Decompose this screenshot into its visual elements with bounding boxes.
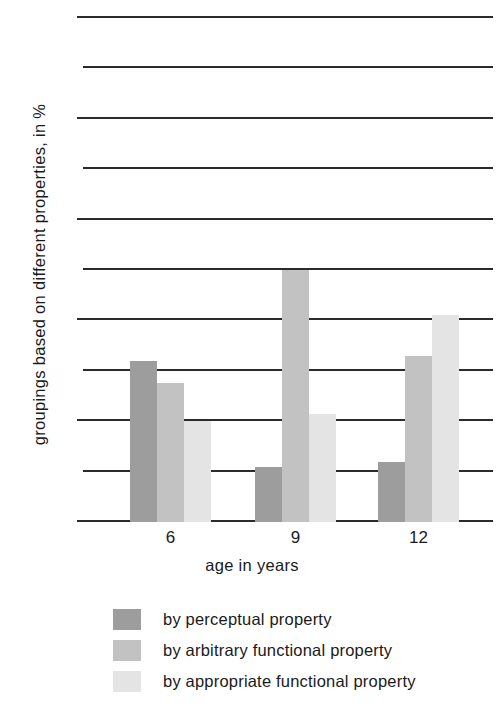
bar-6-series1	[130, 361, 157, 522]
bar-12-series1	[378, 462, 405, 522]
gridline-minor-70	[83, 167, 493, 169]
x-tick-label-9: 9	[256, 528, 336, 548]
bar-9-series3	[309, 414, 336, 522]
legend-swatch-icon-1	[113, 609, 141, 630]
legend-item-label: by perceptual property	[163, 610, 332, 629]
gridline-major-60	[77, 218, 493, 220]
legend-item-label: by appropriate functional property	[163, 672, 416, 691]
gridline-major-80	[77, 117, 493, 119]
legend-swatch-icon-2	[113, 640, 141, 661]
legend-swatch-icon-3	[113, 671, 141, 692]
plot-area: 020406080100	[77, 18, 493, 522]
bar-9-series2	[282, 270, 309, 522]
gridline-minor-90	[83, 66, 493, 68]
bar-6-series2	[157, 383, 184, 522]
bar-12-series2	[405, 356, 432, 522]
x-tick-label-6: 6	[131, 528, 211, 548]
bar-9-series1	[255, 467, 282, 522]
legend-item-label: by arbitrary functional property	[163, 641, 392, 660]
legend-item-1: by perceptual property	[113, 604, 503, 635]
x-tick-label-12: 12	[379, 528, 459, 548]
y-axis-title: groupings based on different properties,…	[30, 25, 49, 525]
x-axis-title: age in years	[0, 556, 504, 575]
legend-item-2: by arbitrary functional property	[113, 635, 503, 666]
bar-12-series3	[432, 315, 459, 522]
bar-chart-figure: groupings based on different properties,…	[0, 0, 504, 711]
chart-legend: by perceptual propertyby arbitrary funct…	[113, 604, 503, 697]
legend-item-3: by appropriate functional property	[113, 666, 503, 697]
gridline-major-100	[77, 16, 493, 18]
bar-6-series3	[184, 421, 211, 522]
